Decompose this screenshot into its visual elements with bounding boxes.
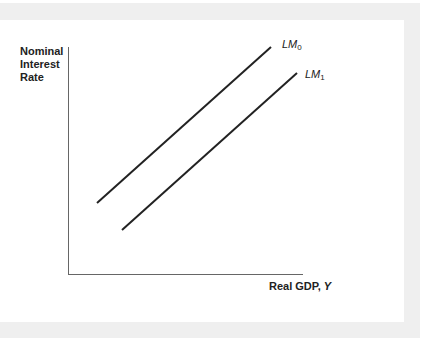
lm0-label-sub: 0 bbox=[297, 43, 301, 52]
lm0-label-main: LM bbox=[282, 38, 297, 50]
lm1-label: LM1 bbox=[305, 68, 325, 82]
y-axis-label-line: Interest bbox=[20, 58, 63, 71]
lm0-curve bbox=[97, 47, 271, 203]
x-axis-variable: Y bbox=[324, 280, 331, 292]
lm1-curve bbox=[122, 73, 297, 230]
x-axis-label: Real GDP, Y bbox=[269, 280, 331, 292]
x-axis-label-text: Real GDP, bbox=[269, 280, 321, 292]
y-axis-label-line: Rate bbox=[20, 71, 63, 84]
lm1-label-main: LM bbox=[305, 68, 320, 80]
lm1-label-sub: 1 bbox=[320, 73, 324, 82]
y-axis-label-line: Nominal bbox=[20, 45, 63, 58]
y-axis-label: Nominal Interest Rate bbox=[20, 45, 63, 84]
lm0-label: LM0 bbox=[282, 38, 302, 52]
